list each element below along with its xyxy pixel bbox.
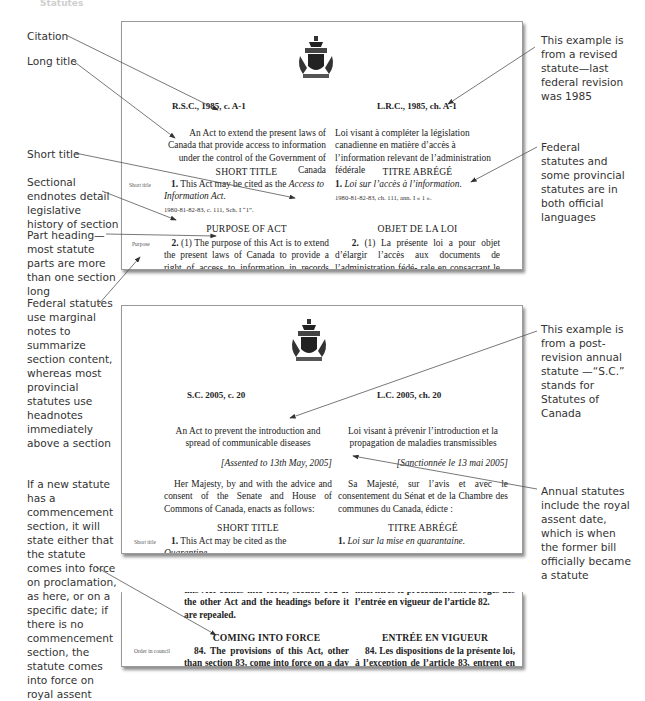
long-title-fr: Loi visant à prévenir l’introduction et … (338, 425, 508, 450)
statute-page-revised: R.S.C., 1985, c. A-1 L.R.C., 1985, ch. A… (121, 21, 523, 270)
section-1-fr: 1. Loi sur la mise en quarantaine. (338, 535, 508, 547)
annotation-citation: Citation (27, 29, 117, 43)
statute-page-annual: S.C. 2005, c. 20 L.C. 2005, ch. 20 An Ac… (121, 305, 523, 554)
enacting-clause-en: Her Majesty, by and with the advice and … (164, 478, 332, 515)
heading-short-title-en: SHORT TITLE (164, 166, 329, 177)
annotation-royal-assent: Annual statutes include the royal assent… (541, 484, 636, 582)
citation-en: R.S.C., 1985, c. A-1 (172, 101, 302, 111)
citation-fr: L.C. 2005, ch. 20 (377, 390, 507, 400)
long-title-en: An Act to prevent the introduction and s… (164, 425, 332, 450)
coat-of-arms-icon (297, 36, 335, 81)
citation-en: S.C. 2005, c. 20 (187, 390, 317, 400)
annotation-official-languages: Federal statutes and some provincial sta… (541, 140, 626, 224)
annotation-long-title: Long title (27, 54, 117, 68)
heading-purpose-en: PURPOSE OF ACT (164, 223, 329, 234)
section-1-en: 1. This Act may be cited as the Quaranti… (164, 535, 332, 554)
assent-date-fr: [Sanctionnée le 13 mai 2005] (338, 457, 508, 469)
section-1-fr: 1. Loi sur l’accès à l’information. (335, 178, 500, 190)
marginal-note-short-title: Short title (134, 539, 156, 545)
marginal-note-purpose: Purpose (132, 241, 150, 247)
statute-page-commencement: this Act comes into force, section 102 o… (121, 592, 523, 667)
endnote-en: 1980-81-82-83, c. 111, Sch. I “1”. (164, 206, 254, 213)
annotation-part-heading: Part heading—most statute parts are more… (27, 228, 119, 298)
assent-date-en: [Assented to 13th May, 2005] (164, 457, 332, 469)
section-1-en: 1. This Act may be cited as the Access t… (164, 178, 329, 203)
annotation-marginal-notes: Federal statutes use marginal notes to s… (27, 296, 119, 450)
marginal-note-short-title: Short title (129, 182, 151, 188)
section-84-fr: 84. Les dispositions de la présente loi,… (355, 645, 515, 667)
heading-short-title-fr: TITRE ABRÉGÉ (338, 522, 508, 533)
heading-purpose-fr: OBJET DE LA LOI (335, 223, 500, 234)
citation-fr: L.R.C., 1985, ch. A-1 (377, 101, 507, 111)
annotation-revised-statute: This example is from a revised statute—l… (541, 33, 636, 103)
section-2-fr: 2. (1) La présente loi a pour objet d’él… (335, 237, 500, 270)
annotation-sectional-endnotes: Sectional endnotes detail legislative hi… (27, 175, 119, 231)
annotation-commencement: If a new statute has a commencement sect… (27, 477, 119, 701)
heading-short-title-en: SHORT TITLE (164, 522, 332, 533)
heading-coming-into-force-fr: ENTRÉE EN VIGUEUR (355, 632, 515, 643)
enacting-clause-fr: Sa Majesté, sur l’avis et avec le consen… (338, 478, 508, 515)
annotation-short-title: Short title (27, 147, 117, 161)
page-header: Statutes (0, 0, 645, 12)
heading-short-title-fr: TITRE ABRÉGÉ (335, 166, 500, 177)
section-84-en: 84. The provisions of this Act, other th… (184, 645, 349, 667)
coat-of-arms-icon (290, 318, 328, 365)
previous-section-fr: intertitres le précédant sont abrogés dè… (355, 592, 515, 609)
marginal-note-order-in-council: Order in council (134, 648, 170, 654)
annotation-annual-statute: This example is from a post-revision ann… (541, 322, 636, 420)
section-2-en: 2. (1) The purpose of this Act is to ext… (164, 237, 329, 270)
endnote-fr: 1980-81-82-83, ch. 111, ann. I « 1 ». (335, 194, 432, 201)
previous-section-en: this Act comes into force, section 102 o… (184, 592, 349, 621)
heading-coming-into-force-en: COMING INTO FORCE (184, 632, 349, 643)
